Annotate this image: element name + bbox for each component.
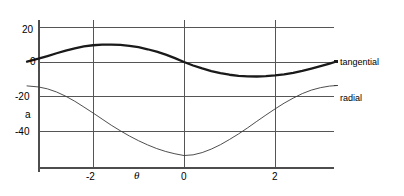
x-tick-label-0: 0 [181,172,187,182]
gridlines-group [39,20,334,168]
series-label-tangential: tangential [340,58,379,67]
x-axis-title: θ [134,170,139,180]
curve-tangential [27,45,336,77]
legend-leader-lines [334,61,338,85]
series-label-radial: radial [340,94,362,103]
y-tick-label-neg40: -40 [15,127,29,137]
y-tick-label-0: 0 [30,57,36,67]
chart-figure: 20 0 -20 -40 a -2 0 2 θ tangential radia… [0,0,404,196]
curve-radial [27,86,336,156]
x-tick-label-neg2: -2 [86,172,95,182]
data-curves-group [27,45,336,156]
y-tick-label-neg20: -20 [15,92,29,102]
y-tick-label-20: 20 [22,25,33,35]
axes-group [39,20,334,172]
x-tick-label-2: 2 [272,172,278,182]
y-axis-title: a [25,110,31,120]
